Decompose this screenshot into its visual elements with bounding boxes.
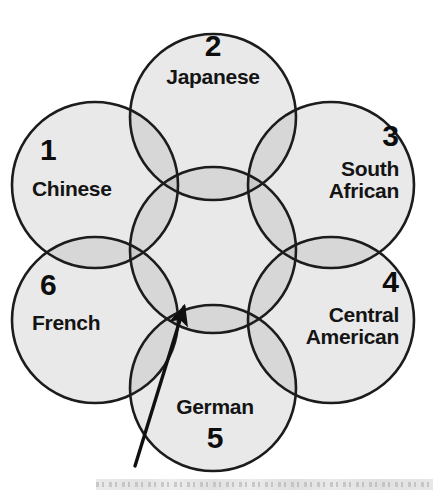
circle-number-1: 1 <box>40 133 57 166</box>
venn-diagram-canvas: 1 Chinese 2 Japanese 3 South African 4 C… <box>0 0 433 493</box>
circle-name-south-african-line2: African <box>329 179 399 202</box>
circle-name-chinese: Chinese <box>32 177 112 200</box>
circle-number-4: 4 <box>382 265 399 298</box>
circle-number-6: 6 <box>40 268 57 301</box>
circle-name-french: French <box>32 311 100 334</box>
caption-strip <box>96 479 433 490</box>
circle-number-2: 2 <box>205 29 222 62</box>
circle-name-central-american-line2: American <box>306 325 399 348</box>
circle-number-5: 5 <box>207 421 224 454</box>
circle-name-japanese: Japanese <box>166 65 259 88</box>
circle-name-central-american-line1: Central <box>329 303 399 326</box>
circle-number-3: 3 <box>382 119 399 152</box>
circle-name-german: German <box>176 395 254 418</box>
circle-name-south-african-line1: South <box>341 157 399 180</box>
venn-diagram-figure: 1 Chinese 2 Japanese 3 South African 4 C… <box>0 0 433 493</box>
